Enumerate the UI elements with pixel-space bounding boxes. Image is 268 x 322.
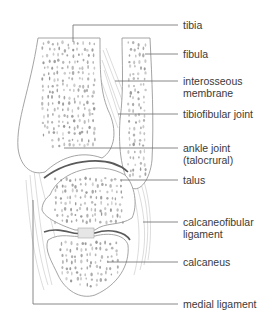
trabecular-pore [76, 189, 78, 193]
trabecular-pore [61, 40, 64, 44]
trabecular-pore [107, 203, 109, 206]
trabecular-pore [77, 125, 79, 129]
trabecular-pore [134, 139, 136, 143]
trabecular-pore [48, 72, 50, 75]
trabecular-pore [58, 95, 60, 99]
trabecular-pore [85, 191, 87, 194]
trabecular-pore [67, 115, 69, 119]
trabecular-pore [144, 163, 146, 167]
trabecular-pore [89, 264, 91, 267]
trabecular-pore [128, 114, 130, 117]
trabecular-pore [61, 254, 63, 257]
trabecular-pore [117, 271, 118, 274]
trabecular-pore [87, 130, 89, 134]
trabecular-pore [83, 103, 85, 106]
trabecular-pore [144, 114, 146, 118]
trabecular-pore [134, 151, 136, 153]
trabecular-pore [93, 72, 94, 75]
trabecular-pore [71, 271, 73, 275]
trabecular-pore [79, 144, 81, 146]
label-ankle-joint: ankle joint (talocrural) [183, 142, 233, 166]
label-line: ankle joint [183, 142, 233, 154]
trabecular-pore [73, 83, 75, 87]
trabecular-pore [82, 242, 85, 245]
trabecular-pore [67, 107, 69, 111]
trabecular-pore [80, 215, 83, 217]
trabecular-pore [130, 91, 133, 95]
label-tibia: tibia [183, 19, 202, 31]
trabecular-pore [61, 53, 63, 55]
trabecular-pore [66, 84, 68, 87]
trabecular-pore [110, 208, 112, 212]
label-line: membrane [183, 87, 243, 99]
trabecular-pore [77, 95, 79, 98]
trabecular-pore [68, 77, 70, 79]
trabecular-pore [62, 260, 64, 264]
trabecular-pore [77, 88, 79, 92]
label-calcaneus: calcaneus [183, 256, 230, 268]
trabecular-pore [77, 107, 79, 110]
trabecular-pore [137, 97, 139, 100]
trabecular-pore [60, 179, 62, 181]
trabecular-pore [105, 271, 106, 275]
trabecular-pore [76, 271, 78, 274]
trabecular-pore [42, 55, 44, 57]
trabecular-pore [80, 259, 82, 263]
trabecular-pore [48, 85, 50, 88]
trabecular-pore [100, 278, 103, 282]
trabecular-pore [143, 101, 145, 103]
trabecular-pore [134, 49, 136, 52]
trabecular-pore [112, 215, 113, 219]
trabecular-pore [87, 65, 89, 69]
trabecular-pore [53, 72, 55, 75]
trabecular-pore [140, 162, 142, 165]
trabecular-pore [134, 88, 136, 92]
trabecular-pore [139, 175, 141, 178]
trabecular-pore [99, 266, 101, 269]
trabecular-pore [62, 82, 64, 86]
trabecular-pore [89, 177, 91, 180]
trabecular-pore [137, 77, 138, 79]
trabecular-pore [82, 41, 84, 45]
trabecular-pore [78, 54, 80, 56]
trabecular-pore [100, 273, 102, 276]
trabecular-pore [76, 243, 78, 246]
trabecular-pore [43, 42, 45, 45]
trabecular-pore [76, 209, 78, 212]
trabecular-pore [143, 83, 145, 86]
trabecular-pore [88, 109, 90, 113]
trabecular-pore [64, 49, 66, 53]
trabecular-pore [80, 196, 82, 199]
trabecular-pore [117, 214, 119, 218]
label-line: calcaneofibular [183, 216, 254, 228]
trabecular-pore [63, 143, 65, 147]
trabecular-pore [115, 219, 117, 223]
trabecular-pore [82, 95, 84, 98]
trabecular-pore [74, 127, 76, 131]
trabecular-pore [85, 182, 87, 186]
trabecular-pore [48, 131, 49, 134]
label-line: ligament [183, 228, 254, 240]
trabecular-pore [99, 190, 101, 192]
trabecular-pore [73, 119, 76, 122]
trabecular-pore [95, 261, 97, 264]
trabecular-pore [93, 131, 95, 135]
trabecular-pore [95, 218, 96, 222]
trabecular-pore [99, 221, 101, 224]
trabecular-pore [79, 77, 81, 79]
trabecular-pore [72, 109, 74, 113]
trabecular-pore [53, 60, 56, 63]
trabecular-pore [71, 255, 73, 258]
trabecular-pore [85, 242, 87, 245]
trabecular-pore [74, 259, 76, 263]
trabecular-pore [76, 219, 78, 222]
trabecular-pore [100, 201, 102, 205]
trabecular-pore [91, 208, 93, 212]
trabecular-pore [139, 139, 141, 142]
trabecular-pore [137, 47, 139, 49]
trabecular-pore [94, 137, 95, 141]
label-tibiofibular-joint: tibiofibular joint [183, 108, 253, 120]
trabecular-pore [110, 220, 113, 222]
trabecular-pore [57, 107, 59, 110]
trabecular-pore [87, 95, 89, 98]
